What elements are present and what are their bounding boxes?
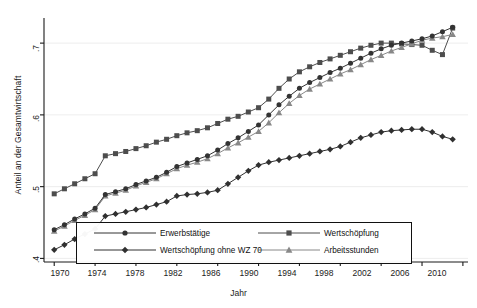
x-axis-tick-label: 1982 [153, 268, 193, 278]
y-axis-tick-label: .5 [31, 186, 41, 208]
y-axis-label: Anteil an der Gesamtwirtschaft [13, 25, 23, 245]
series-circle [52, 25, 455, 232]
legend-label-wertschoepfung-ohne-wz70: Wertschöpfung ohne WZ 70 [160, 246, 262, 255]
series-triangle [51, 31, 456, 233]
x-axis-tick-label: 1998 [304, 268, 344, 278]
x-axis-tick-label: 1986 [191, 268, 231, 278]
x-axis-tick-label: 2002 [342, 268, 382, 278]
y-axis-tick-label: .7 [31, 45, 41, 67]
series-square [52, 26, 455, 197]
x-axis-tick-label: 1970 [40, 268, 80, 278]
x-axis-tick-label: 1978 [115, 268, 155, 278]
x-axis-tick-label: 1990 [229, 268, 269, 278]
legend-label-erwerbstaetige: Erwerbstätige [160, 229, 210, 238]
data-series-layer [51, 25, 456, 253]
x-axis-tick-label: 1994 [267, 268, 307, 278]
legend-label-arbeitsstunden: Arbeitsstunden [324, 246, 379, 255]
chart-figure: Anteil an der Gesamtwirtschaft Jahr .7 .… [0, 0, 477, 308]
x-axis-label: Jahr [0, 288, 477, 298]
x-axis-tick-label: 1974 [77, 268, 117, 278]
legend-label-wertschoepfung: Wertschöpfung [324, 229, 379, 238]
x-axis-tick-label: 2006 [380, 268, 420, 278]
legend-markers [76, 222, 410, 262]
x-axis-tick-label: 2010 [417, 268, 457, 278]
y-axis-tick-label: .6 [31, 115, 41, 137]
